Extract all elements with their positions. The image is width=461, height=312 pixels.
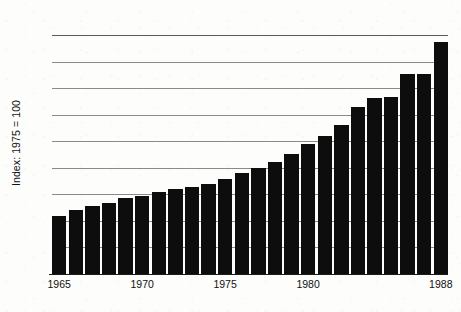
bar <box>334 125 348 274</box>
bar <box>218 179 232 274</box>
bar <box>318 136 332 274</box>
bar <box>268 162 282 274</box>
bar <box>301 144 315 274</box>
bars-group <box>52 35 448 274</box>
bar <box>400 74 414 274</box>
bar <box>367 98 381 274</box>
plot-area: 2001751501251007550250 <box>52 35 448 274</box>
y-axis-title: Index: 1975 = 100 <box>10 68 22 218</box>
x-tick-label: 1970 <box>130 278 153 290</box>
y-axis-title-container: Index: 1975 = 100 <box>0 0 22 290</box>
bar <box>118 198 132 274</box>
x-tick-label: 1965 <box>48 278 71 290</box>
x-tick-label: 1980 <box>296 278 319 290</box>
bar <box>85 206 99 274</box>
bar <box>384 97 398 274</box>
bar <box>284 154 298 274</box>
bar <box>152 192 166 274</box>
x-axis-baseline <box>49 274 448 276</box>
bar-chart-figure: Index: 1975 = 100 2001751501251007550250… <box>0 0 461 312</box>
x-axis-tick-labels: 19651970197519801988 <box>52 276 448 296</box>
bar <box>351 107 365 274</box>
bar <box>417 74 431 274</box>
bar <box>52 216 66 274</box>
bar <box>69 210 83 274</box>
x-tick-label: 1988 <box>429 278 452 290</box>
bar <box>102 203 116 274</box>
bar <box>135 196 149 274</box>
bar <box>168 189 182 274</box>
bar <box>185 187 199 274</box>
bar <box>434 42 448 274</box>
bar <box>235 173 249 274</box>
bar <box>201 184 215 274</box>
bar <box>251 168 265 274</box>
x-tick-label: 1975 <box>213 278 236 290</box>
